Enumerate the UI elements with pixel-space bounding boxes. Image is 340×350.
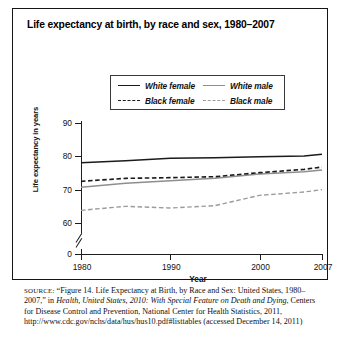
source-note: SOURCE: “Figure 14. Life Expectancy at B… (24, 286, 324, 328)
figure-container: Life expectancy at birth, by race and se… (0, 0, 340, 350)
series-line-white-female (81, 154, 322, 162)
series-line-black-male (81, 190, 322, 211)
plot-area (13, 9, 329, 281)
chart-frame: Life expectancy at birth, by race and se… (12, 8, 328, 280)
source-title-italic: Health, United States, 2010: With Specia… (56, 296, 286, 305)
source-label: SOURCE: (24, 287, 55, 294)
